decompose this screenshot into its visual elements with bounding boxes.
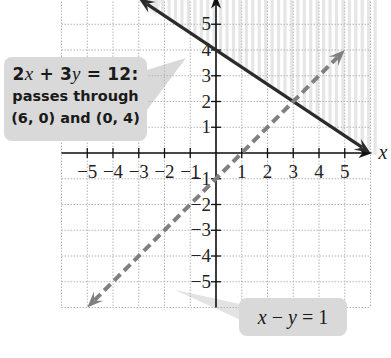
x-tick-label: 3 — [289, 161, 299, 182]
x-tick-label: −2 — [154, 161, 174, 182]
y-tick-label: 1 — [202, 116, 212, 137]
dashed-callout-pointer — [175, 290, 245, 322]
x-tick-label: 4 — [314, 161, 324, 182]
x-tick-label: −3 — [129, 161, 149, 182]
solid-line-equation: 2x + 3y = 12: — [4, 63, 147, 85]
solid-line-intercepts: (6, 0) and (0, 4) — [4, 107, 147, 129]
y-tick-label: 3 — [202, 65, 212, 86]
x-tick-label: −4 — [103, 161, 124, 182]
y-tick-label: −5 — [191, 271, 211, 292]
solid-line-description: passes through — [4, 85, 147, 107]
x-tick-label: 5 — [340, 161, 350, 182]
dashed-line-callout: x − y = 1 — [239, 298, 347, 336]
solid-line-callout: 2x + 3y = 12: passes through (6, 0) and … — [4, 57, 147, 141]
y-tick-label: 5 — [202, 13, 212, 34]
y-tick-label: 2 — [202, 91, 212, 112]
x-tick-label: 1 — [237, 161, 247, 182]
x-axis-label: x — [378, 141, 388, 163]
x-tick-label: 2 — [263, 161, 273, 182]
x-tick-label: −5 — [77, 161, 97, 182]
y-tick-label: −3 — [191, 219, 211, 240]
y-tick-label: −4 — [191, 245, 212, 266]
